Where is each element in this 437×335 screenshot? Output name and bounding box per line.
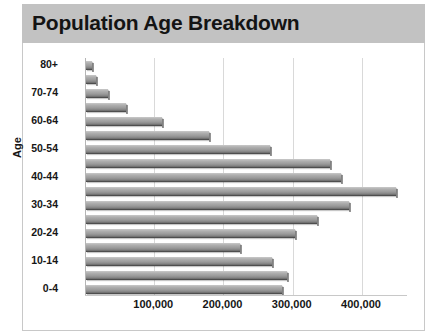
y-tick-label-0-4: 0-4 [43,282,58,294]
bar-row [86,243,408,252]
bar-45-49 [86,159,330,168]
y-axis-title: Age [11,137,23,158]
y-tick-label-10-14: 10-14 [31,254,58,266]
y-tick-label-50-54: 50-54 [31,142,58,154]
bar-5-9 [86,271,287,280]
bar-row [86,229,408,238]
bar-25-29 [86,215,317,224]
y-tick-label-30-34: 30-34 [31,198,58,210]
chart-title-banner: Population Age Breakdown [22,4,425,43]
bar-row [86,187,408,196]
x-tick-label-300000: 300,000 [272,298,312,310]
bar-60-64 [86,117,162,126]
bar-row [86,159,408,168]
y-tick-label-80+: 80+ [40,58,58,70]
bar-20-24 [86,229,295,238]
x-axis-tick-labels: 100,000200,000300,000400,000 [22,296,425,324]
y-tick-label-20-24: 20-24 [31,226,58,238]
bar-row [86,131,408,140]
y-axis-tick-labels: 0-410-1420-2430-3440-4450-5460-6470-7480… [0,43,62,331]
bar-row [86,215,408,224]
bar-row [86,271,408,280]
x-tick-label-200000: 200,000 [203,298,243,310]
bar-80+ [86,61,92,70]
x-tick-label-400000: 400,000 [341,298,381,310]
bar-35-39 [86,187,396,196]
chart-screenshot: Population Age Breakdown 0-410-1420-2430… [0,0,437,335]
bar-65-69 [86,103,126,112]
bar-row [86,117,408,126]
bar-15-19 [86,243,240,252]
y-tick-label-60-64: 60-64 [31,114,58,126]
bar-0-4 [86,285,282,294]
bar-row [86,103,408,112]
bar-row [86,201,408,210]
y-tick-label-70-74: 70-74 [31,86,58,98]
bar-row [86,257,408,266]
bar-row [86,285,408,294]
page-title: Population Age Breakdown [32,11,299,35]
bar-50-54 [86,145,270,154]
bar-10-14 [86,257,272,266]
bar-75-79 [86,75,96,84]
bar-row [86,173,408,182]
y-tick-label-40-44: 40-44 [31,170,58,182]
bar-row [86,75,408,84]
bar-row [86,89,408,98]
chart-frame [22,43,425,331]
bar-70-74 [86,89,108,98]
bar-row [86,61,408,70]
bar-40-44 [86,173,341,182]
plot-area [85,58,407,296]
bar-row [86,145,408,154]
bar-55-59 [86,131,209,140]
bar-30-34 [86,201,349,210]
x-tick-label-100000: 100,000 [133,298,173,310]
